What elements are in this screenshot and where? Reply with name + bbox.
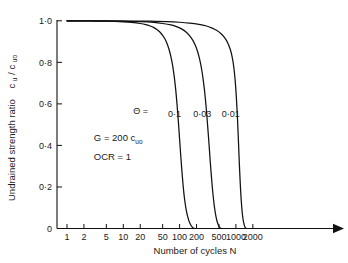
shear-modulus-note-subscript: uo (135, 138, 143, 145)
x-axis-tick-label: 20 (135, 232, 145, 242)
y-axis-title-main: Undrained strength ratio (6, 99, 17, 201)
x-axis-tick-label: 2 (81, 232, 86, 242)
x-axis-tick-label: 500 (211, 232, 226, 242)
x-axis-tick-label: 100 (172, 232, 187, 242)
x-axis-tick-label: 50 (158, 232, 168, 242)
shear-modulus-note-text: G = 200 c (94, 132, 136, 143)
curve-label-theta: 0·01 (222, 109, 240, 119)
chart-figure-root: 00·20·40·60·81·0 12510205010020050010002… (0, 0, 348, 263)
y-axis-tick-label: 0·6 (39, 99, 52, 109)
x-axis-tick-label: 2000 (243, 232, 263, 242)
curve-label-theta: 0·1 (168, 109, 181, 119)
y-axis-tick-label: 0 (47, 224, 52, 234)
y-axis-title-numerator: c (6, 84, 17, 89)
y-axis-tick-label: 0·2 (39, 182, 52, 192)
y-axis-tick-label: 1·0 (39, 16, 52, 26)
x-axis-tick-label: 1 (64, 232, 69, 242)
y-axis-title-denominator-sub: uo (11, 55, 18, 63)
curve-labels: 0·10·030·01 (168, 109, 240, 119)
ocr-note: OCR = 1 (94, 151, 131, 162)
y-axis-tick-label: 0·8 (39, 58, 52, 68)
figure-background (0, 0, 348, 263)
y-axis-title-denominator: c (6, 65, 17, 70)
x-axis-tick-label: 200 (189, 232, 204, 242)
y-axis-tick-label: 0·4 (39, 141, 52, 151)
theta-prefix-label: Θ = (133, 106, 148, 116)
ocr-note-text: OCR = 1 (94, 151, 131, 162)
x-axis-title: Number of cycles N (154, 245, 237, 256)
x-axis-tick-label: 5 (104, 232, 109, 242)
undrained-strength-vs-cycles-chart: 00·20·40·60·81·0 12510205010020050010002… (0, 0, 348, 263)
x-axis-tick-label: 10 (118, 232, 128, 242)
y-axis-title-slash: / (6, 72, 17, 75)
curve-label-theta: 0·03 (193, 109, 211, 119)
y-axis-title-numerator-sub: u (11, 77, 18, 81)
